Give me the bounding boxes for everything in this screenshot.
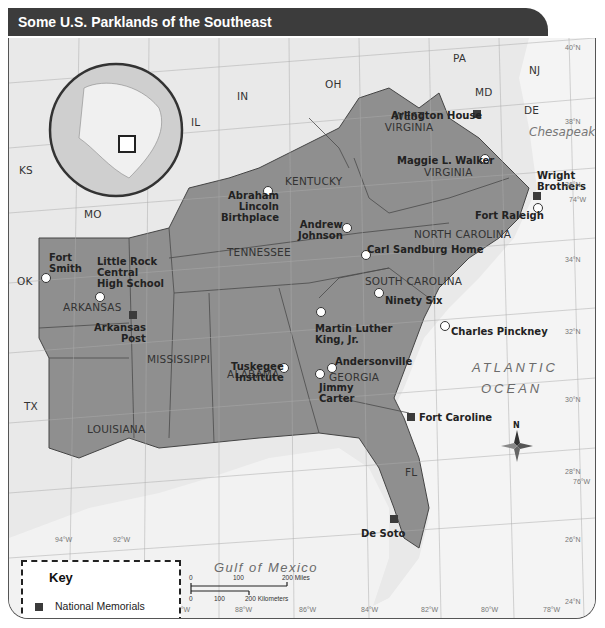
scale-miles-0: 0 — [189, 574, 193, 581]
site-label-arkansas-post-line2: Post — [121, 333, 146, 344]
site-label-little-rock-line1: Little Rock — [97, 256, 157, 267]
site-label-de-soto: De Soto — [361, 528, 405, 539]
lon-label-76: 76°W — [573, 478, 590, 485]
key-memorials-label: National Memorials — [55, 600, 145, 612]
state-label-md: MD — [475, 86, 493, 98]
site-label-arkansas-post: ArkansasPost — [94, 322, 146, 344]
site-label-arkansas-post-line1: Arkansas — [94, 322, 146, 333]
site-label-andrew-johnson-line2: Johnson — [298, 230, 343, 241]
state-label-ks: KS — [19, 164, 33, 176]
memorial-marker-wright[interactable] — [533, 192, 541, 200]
lon-label-74: 74°W — [569, 196, 586, 203]
lat-label-24: 24°N — [565, 598, 581, 605]
site-label-jimmy-carter-line1: Jimmy — [319, 382, 354, 393]
lon-label-94: 94°W — [55, 536, 72, 543]
memorial-marker-arkansas-post[interactable] — [129, 311, 137, 319]
site-label-jimmy-carter: JimmyCarter — [319, 382, 355, 404]
memorial-marker-fort-caroline[interactable] — [407, 413, 415, 421]
site-label-tuskegee-line1: Tuskegee — [231, 361, 284, 372]
state-label-sc: SOUTH CAROLINA — [365, 275, 462, 287]
map-area: PA NJ MD DE OH IN IL KS MO OK TX WEST VI… — [8, 38, 596, 619]
site-label-lincoln-line2: Lincoln — [239, 201, 279, 212]
lon-label-86: 86°W — [299, 606, 316, 613]
lon-label-92: 92°W — [113, 536, 130, 543]
lon-label-88: 88°W — [235, 606, 252, 613]
key-title: Key — [49, 570, 73, 585]
memorial-marker-de-soto[interactable] — [390, 515, 398, 523]
water-label-ocean: OCEAN — [481, 381, 542, 396]
state-label-va: VIRGINIA — [424, 166, 473, 178]
site-label-fort-smith-line2: Smith — [49, 263, 82, 274]
site-label-jimmy-carter-line2: Carter — [319, 393, 355, 404]
state-label-la: LOUISIANA — [87, 423, 145, 435]
lat-label-30: 30°N — [565, 396, 581, 403]
historic-marker-little-rock[interactable] — [95, 292, 105, 302]
key-memorial-icon — [35, 603, 43, 611]
state-label-ar: ARKANSAS — [63, 301, 122, 313]
lat-label-26: 26°N — [565, 536, 581, 543]
lon-label-78: 78°W — [543, 606, 560, 613]
state-label-fl: FL — [405, 466, 417, 478]
site-label-andrew-johnson-line1: Andrew — [300, 219, 343, 230]
map-key: Key National Memorials National Historic… — [21, 560, 181, 619]
locator-globe — [50, 64, 182, 196]
site-label-charles-pinckney: Charles Pinckney — [451, 326, 548, 337]
state-label-tx: TX — [24, 400, 38, 412]
lat-label-36: 36°N — [565, 181, 581, 188]
historic-marker-fort-smith[interactable] — [41, 273, 51, 283]
site-label-carl-sandburg: Carl Sandburg Home — [367, 244, 483, 255]
state-label-tn: TENNESSEE — [227, 246, 291, 258]
state-label-nc: NORTH CAROLINA — [414, 228, 511, 240]
site-label-little-rock-line3: High School — [97, 278, 164, 289]
lon-label-82: 82°W — [421, 606, 438, 613]
historic-marker-charles-pinckney[interactable] — [440, 321, 450, 331]
state-label-ms: MISSISSIPPI — [147, 353, 210, 365]
state-label-oh: OH — [325, 78, 342, 90]
site-label-andersonville: Andersonville — [335, 356, 412, 367]
historic-marker-ninety-six[interactable] — [374, 288, 384, 298]
lon-label-84: 84°W — [361, 606, 378, 613]
water-label-gulf: Gulf of Mexico — [214, 560, 318, 575]
lon-label-80: 80°W — [481, 606, 498, 613]
scale-miles-200: 200 Miles — [282, 574, 310, 581]
scale-km-0: 0 — [189, 595, 193, 602]
lat-label-40: 40°N — [565, 44, 581, 51]
site-label-arlington: Arlington House — [391, 110, 482, 121]
historic-marker-mlk[interactable] — [316, 307, 326, 317]
site-label-little-rock: Little RockCentralHigh School — [97, 256, 164, 289]
state-label-de: DE — [524, 104, 539, 116]
state-label-il: IL — [191, 116, 200, 128]
site-label-tuskegee-line2: Institute — [235, 372, 283, 383]
state-label-mo: MO — [84, 208, 102, 220]
state-label-ok: OK — [17, 275, 33, 287]
site-label-fort-smith: FortSmith — [49, 252, 82, 274]
site-label-little-rock-line2: Central — [97, 267, 138, 278]
site-label-maggie-walker: Maggie L. Walker — [397, 155, 494, 166]
site-label-lincoln: AbrahamLincolnBirthplace — [221, 190, 279, 223]
site-label-mlk-line2: King, Jr. — [315, 334, 359, 345]
water-label-chesapeake: Chesapeake Bay — [529, 126, 596, 139]
lat-label-32: 32°N — [565, 328, 581, 335]
map-title: Some U.S. Parklands of the Southeast — [8, 8, 548, 36]
lat-label-34: 34°N — [565, 256, 581, 263]
site-label-lincoln-line3: Birthplace — [221, 212, 279, 223]
site-label-wright-line1: Wright — [537, 170, 575, 181]
state-label-nj: NJ — [529, 64, 540, 76]
state-label-pa: PA — [453, 52, 466, 64]
scale-miles-100: 100 — [233, 574, 244, 581]
site-label-andrew-johnson: AndrewJohnson — [298, 219, 343, 241]
site-label-mlk-line1: Martin Luther — [315, 323, 393, 334]
site-label-fort-caroline: Fort Caroline — [419, 412, 492, 423]
site-label-ninety-six: Ninety Six — [385, 295, 443, 306]
site-label-tuskegee: TuskegeeInstitute — [231, 361, 284, 383]
lat-label-38: 38°N — [565, 118, 581, 125]
historic-marker-andrew-johnson[interactable] — [342, 223, 352, 233]
historic-marker-jimmy-carter[interactable] — [315, 369, 325, 379]
water-label-atlantic: ATLANTIC — [472, 360, 558, 375]
scale-km-200: 200 Kilometers — [245, 595, 288, 602]
site-label-mlk: Martin LutherKing, Jr. — [315, 323, 393, 345]
site-label-fort-smith-line1: Fort — [49, 252, 72, 263]
site-label-fort-raleigh: Fort Raleigh — [475, 210, 544, 221]
state-label-in: IN — [237, 90, 248, 102]
lat-label-28: 28°N — [565, 468, 581, 475]
